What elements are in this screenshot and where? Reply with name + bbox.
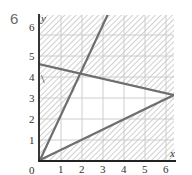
y-tick-1: 1: [29, 134, 35, 146]
y-tick-4: 4: [29, 71, 35, 83]
x-tick-4: 4: [121, 163, 127, 175]
x-tick-6: 6: [163, 163, 169, 175]
hatched-region: [39, 15, 174, 161]
y-tick-6: 6: [29, 21, 35, 33]
x-tick-3: 3: [100, 163, 106, 175]
y-tick-5: 5: [29, 50, 35, 62]
y-axis-label: y: [40, 12, 46, 24]
y-tick-3: 3: [29, 92, 35, 104]
graph: \ y x 0 1 2 3 4 5 6 1 2 3 4 5 6: [0, 0, 192, 175]
x-tick-1: 1: [58, 163, 64, 175]
x-tick-2: 2: [79, 163, 85, 175]
origin-label: 0: [29, 164, 35, 175]
annotation-mark: \: [41, 71, 45, 86]
y-tick-2: 2: [29, 113, 35, 125]
x-tick-5: 5: [142, 163, 148, 175]
x-axis-label: x: [169, 147, 175, 159]
